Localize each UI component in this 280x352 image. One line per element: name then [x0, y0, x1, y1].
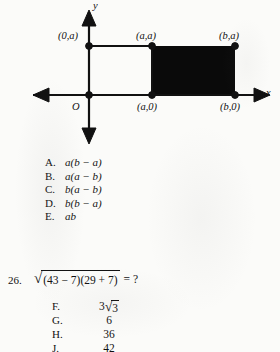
y-axis-arrow-up: [82, 10, 96, 26]
question-26-expression: √ (43 − 7)(29 + 7) = ?: [34, 270, 138, 287]
choice-text-d: b(b − a): [65, 197, 102, 209]
vertex-ba: [232, 43, 239, 50]
question-26-tail: = ?: [124, 270, 138, 285]
x-axis-label: x: [266, 88, 271, 99]
choice-letter-d: D.: [45, 197, 65, 209]
y-axis-label: y: [93, 1, 98, 12]
shaded-rectangle: [152, 46, 235, 95]
choice-option-e[interactable]: E. ab: [45, 210, 245, 224]
choice-option-f[interactable]: F. 3√3: [52, 300, 232, 314]
choice-letter-c: C.: [45, 183, 65, 195]
point-label-b0: (b,0): [220, 102, 240, 113]
choice-letter-e: E.: [45, 210, 65, 222]
choice-value-h: 36: [86, 328, 132, 340]
answer-choices-list-1: A. a(b − a) B. a(a − b) C. b(a − b) D. b…: [45, 156, 245, 224]
point-label-0a: (0,a): [58, 31, 78, 42]
choice-option-d[interactable]: D. b(b − a): [45, 197, 245, 211]
choice-value-g: 6: [86, 314, 132, 326]
answer-choices-list-2: F. 3√3 G. 6 H. 36 J. 42: [52, 300, 232, 352]
choice-value-j: 42: [86, 342, 132, 352]
origin-label: O: [72, 102, 80, 113]
choice-option-h[interactable]: H. 36: [52, 328, 232, 342]
x-axis-arrow-left: [33, 88, 49, 102]
vertex-0a: [86, 43, 93, 50]
y-axis-arrow-down: [82, 128, 96, 144]
scanned-page: y x (0,a) (a,a) (b,a) O (a,0) (b,0) A. a…: [0, 0, 280, 352]
choice-text-c: b(a − b): [65, 183, 102, 195]
choice-letter-j: J.: [52, 342, 86, 352]
choice-letter-b: B.: [45, 170, 65, 182]
vertex-origin: [86, 92, 93, 99]
choice-option-j[interactable]: J. 42: [52, 342, 232, 352]
radical-3: √3: [105, 300, 119, 314]
choice-option-c[interactable]: C. b(a − b): [45, 183, 245, 197]
choice-letter-f: F.: [52, 300, 86, 312]
radical-sign-icon: √: [34, 271, 42, 288]
vertex-a0: [149, 92, 156, 99]
point-label-ba: (b,a): [219, 31, 239, 42]
choice-text-a: a(b − a): [65, 156, 102, 168]
choice-value-f: 3√3: [86, 300, 132, 314]
choice-text-e: ab: [65, 210, 76, 222]
choice-text-b: a(a − b): [65, 170, 102, 182]
choice-option-g[interactable]: G. 6: [52, 314, 232, 328]
radicand: (43 − 7)(29 + 7): [41, 270, 119, 287]
choice-letter-g: G.: [52, 314, 86, 326]
choice-option-a[interactable]: A. a(b − a): [45, 156, 245, 170]
choice-option-b[interactable]: B. a(a − b): [45, 170, 245, 184]
coordinate-plane-svg: [0, 0, 280, 150]
question-26: 26. √ (43 − 7)(29 + 7) = ?: [8, 270, 280, 287]
point-label-a0: (a,0): [137, 102, 157, 113]
vertex-aa: [149, 43, 156, 50]
radical-expression: √ (43 − 7)(29 + 7): [34, 270, 120, 287]
point-label-aa: (a,a): [136, 31, 156, 42]
open-rectangle-outline: [89, 46, 152, 95]
coordinate-figure: y x (0,a) (a,a) (b,a) O (a,0) (b,0): [0, 0, 280, 150]
choice-letter-h: H.: [52, 328, 86, 340]
choice-letter-a: A.: [45, 156, 65, 168]
radicand-3: 3: [111, 300, 119, 314]
vertex-b0: [232, 92, 239, 99]
question-26-number: 26.: [8, 270, 34, 286]
